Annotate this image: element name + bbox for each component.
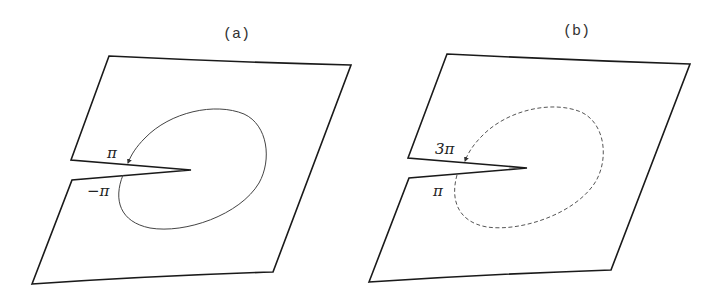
panel-b-loop: [455, 107, 604, 228]
panel-b-upper-edge-label: 3π: [435, 140, 456, 158]
panel-b-label: (b): [563, 23, 590, 40]
panel-b-lower-edge-label: π: [432, 182, 444, 200]
panel-b: (b) 3π π: [369, 23, 690, 282]
panel-a-lower-edge-label: −π: [87, 182, 111, 200]
panel-a-cut-sheet: [32, 56, 351, 284]
panel-a-label: (a): [223, 26, 250, 43]
panel-a: (a) π −π: [32, 26, 351, 284]
panel-a-loop: [119, 109, 267, 229]
panel-b-cut-sheet: [369, 54, 690, 282]
panel-a-upper-edge-label: π: [106, 144, 118, 162]
figure: (a) π −π (b) 3π π: [0, 0, 722, 304]
